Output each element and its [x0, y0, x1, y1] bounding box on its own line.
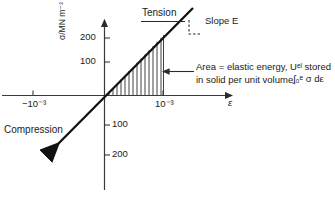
y-axis-label-text: σ/MN m⁻² [57, 26, 67, 40]
x-tick-label-positive: 10⁻³ [155, 99, 174, 109]
x-tick-label-negative: −10⁻³ [22, 99, 46, 109]
slope-marker [189, 20, 201, 34]
y-axis-label: σ/MN m⁻² [57, 26, 67, 40]
area-annotation-line1: Area = elastic energy, Uᵉˡ stored [196, 62, 331, 72]
y-tick-label-200: 200 [80, 32, 96, 42]
compression-label: Compression [4, 125, 63, 135]
tension-underline [141, 21, 185, 22]
tension-label: Tension [142, 8, 176, 18]
y-tick-label-neg-200: 200 [112, 149, 128, 159]
slope-label: Slope E [205, 16, 238, 26]
area-annotation-line2: in solid per unit volume, [196, 75, 296, 85]
integral-expression: ∫₀ᵉ σ dε [293, 74, 324, 84]
x-axis-label: ε [228, 98, 232, 108]
y-tick-label-neg-100: 100 [112, 119, 128, 129]
y-tick-label-100: 100 [80, 56, 96, 66]
